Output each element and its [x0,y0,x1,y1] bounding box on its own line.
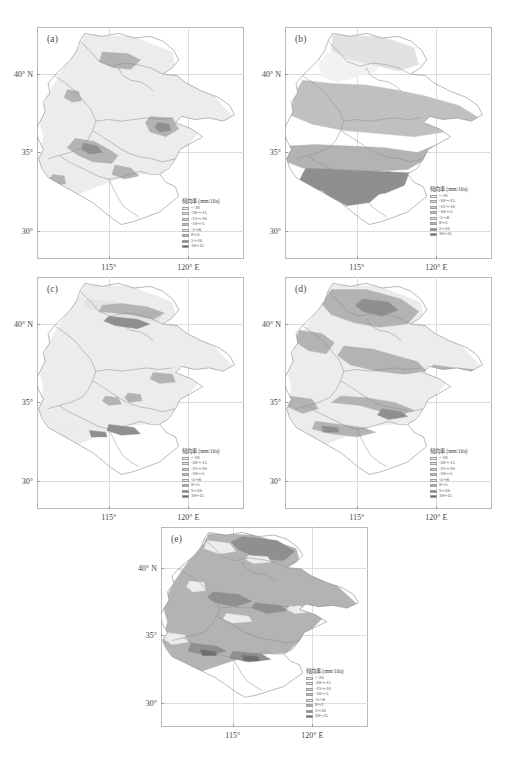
map-panel-e: (e)倾向率 (mm/10a)<-20-20～-15-15～-10-10～-5-… [161,527,368,727]
legend-item: -5～0 [182,228,220,233]
y-axis-label: 40° N [7,70,33,79]
legend-swatch [182,457,189,460]
legend-swatch [182,479,189,482]
y-axis-label: 30° [7,226,33,235]
legend-swatch [430,473,437,476]
legend-swatch [182,462,189,465]
x-axis-label: 120° E [177,263,199,272]
legend-swatch [306,677,313,680]
legend: 倾向率 (mm/10a)<-20-20～-15-15～-10-10～-5-5～0… [306,667,344,720]
legend-swatch [182,223,189,226]
map-panel-c: (c)倾向率 (mm/10a)<-20-20～-15-15～-10-10～-5-… [37,277,244,509]
legend-swatch [306,693,313,696]
legend-swatch [182,207,189,210]
legend-swatch [306,704,313,707]
legend-swatch [182,245,189,248]
legend-label: 10～15 [315,714,328,719]
legend-swatch [430,217,437,220]
legend: 倾向率 (mm/10a)<-20-20～-15-15～-10-10～-5-5～0… [430,185,468,238]
y-axis-label: 30° [131,698,157,707]
legend: 倾向率 (mm/10a)<-20-20～-15-15～-10-10～-5-5～0… [182,197,220,250]
y-axis-label: 30° [255,226,281,235]
panel-label-c: (c) [47,284,58,294]
legend-swatch [430,479,437,482]
legend-swatch [182,240,189,243]
y-axis-label: 40° N [255,70,281,79]
legend-swatch [430,228,437,231]
y-axis-label: 40° N [255,320,281,329]
panel-label-e: (e) [171,534,182,544]
legend-swatch [306,710,313,713]
legend-swatch [430,495,437,498]
legend-swatch [430,457,437,460]
legend-swatch [182,484,189,487]
figure-container: 115°120° E40° N35°30°(a)倾向率 (mm/10a)<-20… [0,0,505,765]
legend-title: 倾向率 (mm/10a) [182,447,220,455]
legend-swatch [182,229,189,232]
legend-item: 10～15 [430,494,468,499]
legend-item: 10～15 [306,714,344,719]
province-boundary [233,658,263,690]
legend: 倾向率 (mm/10a)<-20-20～-15-15～-10-10～-5-5～0… [182,447,220,500]
legend: 倾向率 (mm/10a)<-20-20～-15-15～-10-10～-5-5～0… [430,447,468,500]
legend-swatch [182,234,189,237]
x-axis-label: 120° E [301,731,323,740]
x-axis-label: 115° [349,263,364,272]
legend-item: -5～0 [306,698,344,703]
y-axis-label: 30° [7,476,33,485]
x-axis-label: 115° [101,513,116,522]
x-axis-label: 115° [225,731,240,740]
legend-swatch [306,699,313,702]
x-axis-label: 115° [101,263,116,272]
y-axis-label: 35° [7,398,33,407]
x-axis-label: 115° [349,513,364,522]
panel-label-b: (b) [295,34,307,44]
legend-swatch [430,490,437,493]
legend-swatch [430,222,437,225]
panel-label-a: (a) [47,34,58,44]
map-panel-b: (b)倾向率 (mm/10a)<-20-20～-15-15～-10-10～-5-… [285,27,492,259]
legend-swatch [430,206,437,209]
legend-swatch [306,715,313,718]
legend-swatch [430,195,437,198]
legend-swatch [306,688,313,691]
legend-swatch [182,495,189,498]
legend-swatch [430,211,437,214]
legend-swatch [182,468,189,471]
legend-item: -5～0 [430,216,468,221]
legend-title: 倾向率 (mm/10a) [430,447,468,455]
legend-swatch [430,462,437,465]
legend-item: -5～0 [430,478,468,483]
legend-swatch [430,484,437,487]
legend-swatch [182,473,189,476]
legend-label: 10～15 [439,232,452,237]
legend-swatch [306,682,313,685]
map-panel-a: (a)倾向率 (mm/10a)<-20-20～-15-15～-10-10～-5-… [37,27,244,259]
legend-swatch [430,233,437,236]
x-axis-label: 120° E [177,513,199,522]
y-axis-label: 35° [131,631,157,640]
legend-title: 倾向率 (mm/10a) [182,197,220,205]
legend-title: 倾向率 (mm/10a) [306,667,344,675]
shaded-region [290,80,480,136]
legend-item: -5～0 [182,478,220,483]
legend-swatch [182,490,189,493]
map-panel-d: (d)倾向率 (mm/10a)<-20-20～-15-15～-10-10～-5-… [285,277,492,509]
legend-title: 倾向率 (mm/10a) [430,185,468,193]
legend-label: 10～15 [191,494,204,499]
province-boundary [109,179,139,217]
legend-label: 10～15 [439,494,452,499]
panel-label-d: (d) [295,284,307,294]
y-axis-label: 35° [255,398,281,407]
legend-item: 10～15 [182,494,220,499]
y-axis-label: 40° N [131,563,157,572]
legend-swatch [182,218,189,221]
legend-label: 10～15 [191,244,204,249]
legend-swatch [182,212,189,215]
x-axis-label: 120° E [425,513,447,522]
y-axis-label: 30° [255,476,281,485]
legend-swatch [430,468,437,471]
y-axis-label: 40° N [7,320,33,329]
legend-item: 10～15 [182,244,220,249]
y-axis-label: 35° [255,148,281,157]
